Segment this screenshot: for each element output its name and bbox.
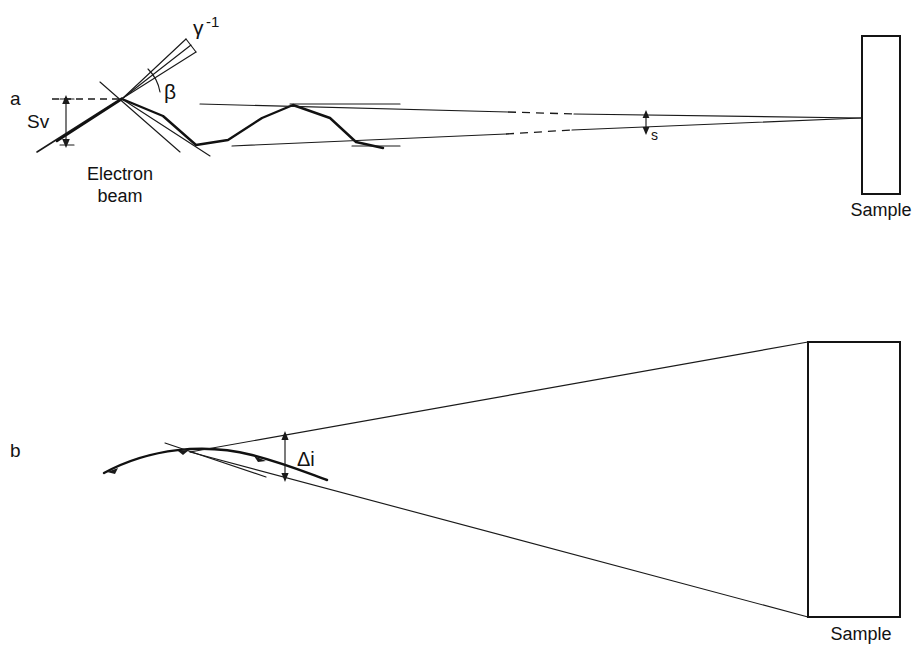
xs-arrowhead-bottom [643, 127, 650, 135]
panel-label-b: b [10, 440, 21, 461]
gamma-inverse-label: γ [193, 16, 204, 39]
delta-i-label: Δi [297, 448, 315, 470]
electron-trajectory-curve [104, 449, 327, 480]
beam-envelope-upper-left [200, 104, 508, 112]
cone-ray-middle [123, 45, 191, 98]
electron-trajectory-zigzag [57, 99, 383, 148]
divergent-ray-upper [190, 342, 808, 452]
sample-label-panel-b: Sample [830, 624, 891, 644]
xs-arrowhead-top [643, 110, 650, 118]
beam-envelope-lower-right [572, 118, 861, 130]
cone-ray-upper [123, 39, 186, 98]
panel-a-group: Sv γ -1 β Electron beam [10, 13, 912, 220]
electron-beam-caption-line1: Electron [87, 164, 153, 184]
gamma-inverse-exponent: -1 [206, 13, 219, 30]
sample-label-panel-a: Sample [850, 200, 911, 220]
diagram-canvas: Sv γ -1 β Electron beam [0, 0, 923, 660]
sample-box-panel-a [862, 36, 900, 194]
beta-label: β [164, 80, 176, 103]
xs-subscript-label: s [651, 127, 658, 143]
panel-b-group: Δi Sample b [10, 342, 900, 644]
sample-box-panel-b [808, 342, 900, 617]
beam-envelope-upper-right [574, 114, 861, 118]
cone-end-cap [186, 39, 196, 52]
panel-label-a: a [10, 88, 21, 109]
electron-beam-caption-line2: beam [97, 186, 142, 206]
sv-label: Sv [27, 111, 50, 132]
beam-envelope-lower-break [506, 130, 572, 134]
figure-root: Sv γ -1 β Electron beam [0, 0, 923, 660]
trajectory-tangent-line [122, 99, 210, 156]
divergent-ray-lower [190, 452, 808, 617]
beam-envelope-upper-break [508, 112, 574, 114]
sv-arrowhead-bottom [62, 139, 70, 148]
